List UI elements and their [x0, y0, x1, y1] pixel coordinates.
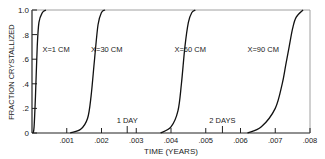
x-tick-label: .004: [164, 136, 179, 145]
y-tick-label: .4: [22, 80, 29, 89]
y-axis-label: FRACTION CRYSTALLIZED: [7, 24, 16, 120]
series-curve: [247, 10, 303, 133]
y-tick-label: .6: [22, 55, 29, 64]
series-curves: [33, 10, 303, 133]
x-tick-label: .006: [233, 136, 248, 145]
series-label: X=60 CM: [174, 45, 205, 54]
series-curve: [33, 10, 46, 133]
y-tick-label: .8: [22, 31, 29, 40]
time-annotation: 2 DAYS: [209, 116, 235, 125]
series-label: X=30 CM: [91, 45, 122, 54]
y-tick-label: .2: [22, 104, 29, 113]
y-tick-label: 1.0: [18, 6, 30, 15]
series-curve: [161, 10, 196, 133]
series-curve: [70, 10, 105, 133]
x-tick-label: .001: [59, 136, 74, 145]
x-tick-label: .003: [129, 136, 144, 145]
plot-frame: [32, 10, 310, 133]
x-tick-label: .008: [303, 136, 318, 145]
x-axis-label: TIME (YEARS): [144, 147, 198, 156]
series-label: X=1 CM: [42, 45, 69, 54]
x-tick-label: .005: [198, 136, 213, 145]
x-tick-label: .007: [268, 136, 283, 145]
x-axis: .001.002.003.004.005.006.007.008: [59, 128, 317, 145]
series-labels: X=1 CMX=30 CMX=60 CMX=90 CM: [42, 45, 279, 54]
x-tick-label: .002: [94, 136, 109, 145]
series-label: X=90 CM: [247, 45, 278, 54]
crystallization-chart: 0.2.4.6.81.0 .001.002.003.004.005.006.00…: [0, 0, 325, 159]
y-tick-label: 0: [25, 129, 30, 138]
time-annotation: 1 DAY: [117, 116, 138, 125]
